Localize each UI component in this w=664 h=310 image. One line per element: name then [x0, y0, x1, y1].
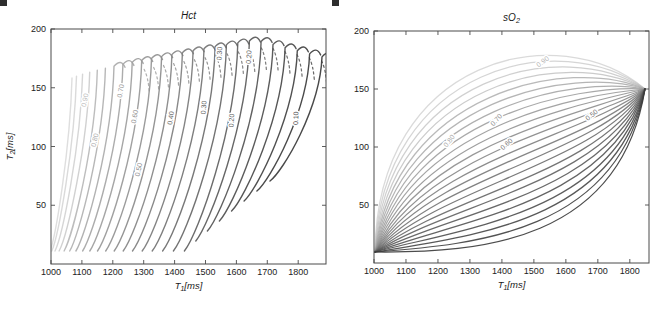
figure-contour-plots: 0.900.800.700.600.500.400.300.300.200.20…	[0, 0, 664, 310]
contour-label: 0.70	[116, 83, 125, 98]
contour-line	[184, 62, 189, 84]
x-tick-label: 1100	[72, 267, 91, 277]
contour-line	[123, 51, 183, 251]
contour-line	[194, 60, 199, 82]
contour-line	[227, 54, 232, 76]
plot-title-hct: Hct	[181, 10, 197, 21]
contour-line	[114, 53, 172, 251]
contour-line	[219, 41, 284, 221]
x-tick-label: 1800	[620, 266, 640, 276]
plot-hct: 0.900.800.700.600.500.400.300.300.200.20…	[4, 10, 339, 292]
contour-line	[98, 57, 153, 251]
contour-label: 0.80	[442, 133, 456, 148]
contour-line	[174, 64, 179, 86]
contour-label: 0.90	[535, 55, 550, 69]
x-tick-label: 1400	[165, 267, 185, 277]
plot-title-so2: sO2	[503, 12, 520, 25]
contour-label: 0.50	[134, 162, 143, 177]
y-tick-label: 150	[31, 83, 46, 93]
x-tick-label: 1700	[588, 266, 608, 276]
x-tick-label: 1000	[41, 267, 61, 277]
contour-line	[184, 39, 248, 251]
x-axis-label-so2-rest: [ms]	[506, 279, 525, 290]
plot-title-so2-sub: 2	[515, 16, 520, 25]
contour-figure-svg: 0.900.800.700.600.500.400.300.300.200.20…	[0, 0, 664, 310]
contour-label: 0.20	[227, 113, 235, 127]
contour-line	[297, 55, 302, 77]
y-tick-label: 100	[31, 142, 46, 152]
contour-line	[270, 53, 333, 181]
x-axis-label-hct-rest: [ms]	[183, 280, 202, 291]
contour-label: 0.60	[499, 137, 514, 151]
contour-line	[133, 49, 194, 251]
x-tick-label: 1800	[288, 267, 308, 277]
contour-line	[334, 64, 339, 86]
contour-line	[90, 59, 143, 251]
contour-line	[164, 66, 169, 88]
plot-title-hct-main: Hct	[181, 10, 197, 21]
axes-box	[374, 31, 649, 263]
contour-label: 0.30	[216, 46, 224, 60]
x-tick-label: 1500	[524, 266, 544, 276]
contour-line	[261, 48, 266, 70]
contour-label: 0.20	[245, 50, 253, 64]
contour-line	[207, 38, 272, 231]
x-tick-label: 1600	[226, 267, 246, 277]
y-tick-label: 150	[354, 84, 369, 94]
contour-line	[309, 58, 314, 80]
contour-label: 0.50	[584, 108, 599, 122]
contour-line	[273, 49, 278, 71]
contour-line	[163, 43, 227, 251]
x-tick-label: 1500	[195, 267, 215, 277]
contour-line	[144, 69, 149, 91]
contour-line	[232, 44, 297, 211]
x-tick-label: 1700	[257, 267, 277, 277]
contour-lines-so2	[375, 55, 645, 252]
contour-line	[83, 61, 134, 251]
contour-line	[196, 37, 261, 241]
contour-line	[285, 52, 290, 74]
y-tick-label: 100	[354, 142, 369, 152]
x-tick-label: 1200	[428, 266, 448, 276]
x-tick-label: 1400	[492, 266, 512, 276]
contour-line	[154, 68, 159, 90]
x-tick-label: 1300	[460, 266, 480, 276]
contour-label: 0.40	[166, 111, 175, 126]
contour-label: 0.30	[200, 100, 208, 114]
x-axis-label-hct: T1[ms]	[175, 280, 203, 292]
x-tick-label: 1000	[364, 266, 384, 276]
y-tick-label: 200	[31, 24, 46, 34]
plot-so2: 0.900.800.700.600.5010001100120013001400…	[354, 12, 649, 291]
x-axis-label-so2: T1[ms]	[498, 279, 526, 291]
x-tick-label: 1200	[103, 267, 123, 277]
y-tick-label: 200	[354, 26, 369, 36]
y-tick-label: 50	[36, 200, 46, 210]
contour-line	[173, 41, 237, 251]
contour-line	[142, 47, 204, 251]
contour-line	[205, 58, 210, 80]
contour-line	[238, 52, 243, 74]
y-axis-label-hct: T2[ms]	[4, 132, 16, 160]
plot-title-so2-main: sO	[503, 12, 516, 23]
contour-line	[257, 50, 321, 191]
x-tick-label: 1100	[396, 266, 415, 276]
x-tick-label: 1300	[134, 267, 154, 277]
x-tick-label: 1600	[556, 266, 576, 276]
contour-label: 0.60	[130, 109, 139, 124]
contour-label: 0.10	[292, 111, 299, 125]
y-tick-label: 50	[359, 200, 369, 210]
contour-line	[106, 55, 163, 251]
contour-line	[152, 45, 215, 251]
y-axis-label-hct-rest: [ms]	[4, 132, 15, 151]
